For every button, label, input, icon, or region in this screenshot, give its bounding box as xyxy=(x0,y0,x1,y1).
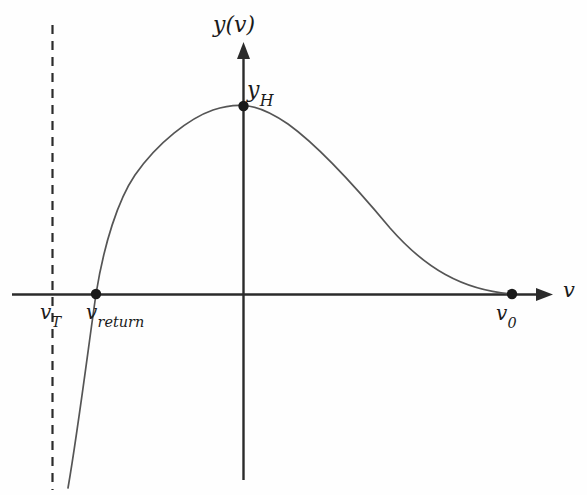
marker-v-0 xyxy=(507,289,517,299)
v-return-label: vreturn xyxy=(86,302,144,326)
plot-canvas xyxy=(0,0,587,495)
physics-plot-figure: y(v) yH vT vreturn v0 v xyxy=(0,0,587,495)
v-t-base: v xyxy=(40,300,51,324)
v-t-subscript: T xyxy=(52,314,62,330)
x-axis-arrowhead xyxy=(536,288,553,301)
y-h-label: yH xyxy=(247,79,273,105)
y-axis-label: y(v) xyxy=(213,14,255,36)
v-0-label: v0 xyxy=(496,303,516,327)
y-axis-arrowhead xyxy=(237,42,250,59)
v-0-subscript: 0 xyxy=(508,315,517,331)
x-axis-label: v xyxy=(563,280,575,301)
y-h-base: y xyxy=(247,77,259,102)
v-return-base: v xyxy=(86,300,97,324)
y-of-v-curve xyxy=(68,105,512,488)
v-t-label: vT xyxy=(40,302,61,326)
marker-v-return xyxy=(91,289,101,299)
y-h-subscript: H xyxy=(260,91,274,110)
v-0-base: v xyxy=(496,301,507,325)
v-return-subscript: return xyxy=(98,314,145,330)
